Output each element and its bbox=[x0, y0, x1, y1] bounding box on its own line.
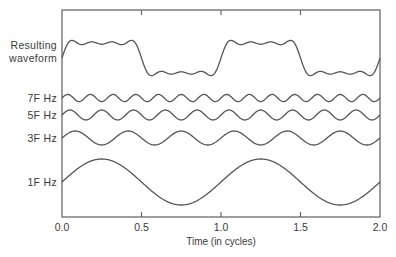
x-tick-label: 0.5 bbox=[134, 221, 149, 233]
x-tick-label: 1.5 bbox=[293, 221, 308, 233]
series-line-1f-hz bbox=[62, 159, 380, 205]
x-ticks bbox=[142, 10, 301, 217]
series-traces bbox=[62, 40, 380, 205]
series-label: 3F Hz bbox=[27, 132, 57, 144]
x-tick-label: 1.0 bbox=[214, 221, 229, 233]
x-tick-labels: 0.00.51.01.52.0 bbox=[55, 221, 388, 233]
plot-frame bbox=[62, 10, 380, 217]
series-line-5f-hz bbox=[62, 110, 380, 120]
x-tick-label: 2.0 bbox=[373, 221, 388, 233]
x-axis-title: Time (in cycles) bbox=[186, 236, 256, 247]
series-label: 7F Hz bbox=[27, 92, 57, 104]
series-line-resulting-waveform bbox=[62, 40, 380, 75]
series-labels: Resultingwaveform7F Hz5F Hz3F Hz1F Hz bbox=[8, 39, 57, 188]
x-tick-label: 0.0 bbox=[55, 221, 70, 233]
series-label: waveform bbox=[8, 52, 57, 64]
series-label: Resulting bbox=[11, 39, 57, 51]
series-label: 1F Hz bbox=[27, 176, 57, 188]
chart: 0.00.51.01.52.0 Resultingwaveform7F Hz5F… bbox=[0, 0, 396, 257]
series-line-3f-hz bbox=[62, 131, 380, 145]
series-line-7f-hz bbox=[62, 94, 380, 101]
series-label: 5F Hz bbox=[27, 109, 57, 121]
